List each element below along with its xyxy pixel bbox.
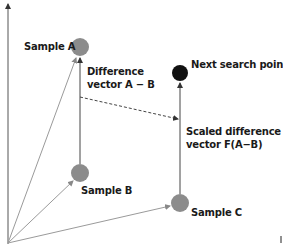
difference-vector-label-line1: Difference [87,66,144,78]
next-search-point-label: Next search point [191,59,283,71]
sample-b-point [71,164,89,182]
scaled-difference-label-line1: Scaled difference [186,126,281,138]
origin-to-sample-c-vector [8,206,170,243]
dashed-translation-arrow [80,97,178,119]
sample-c-point [171,194,189,212]
sample-b-label: Sample B [81,185,132,197]
origin-to-sample-a-vector [8,58,76,243]
origin-to-sample-b-vector [8,181,73,243]
sample-c-label: Sample C [191,207,242,219]
sample-a-label: Sample A [24,41,75,53]
scaled-difference-label-line2: vector F(A−B) [186,139,262,151]
next-search-point [172,65,188,81]
difference-vector-label-line2: vector A − B [87,79,155,91]
